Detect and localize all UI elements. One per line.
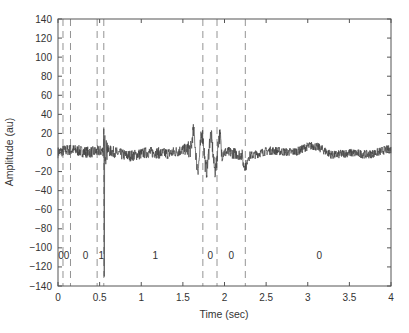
x-tick-label: 2.5 [259, 292, 273, 303]
y-tick-label: −40 [35, 185, 52, 196]
amplitude-time-chart: 00.511.522.533.54 140120100806040200−20−… [0, 0, 409, 333]
y-axis-label: Amplitude (au) [3, 118, 15, 186]
signal-trace [58, 124, 391, 276]
x-tick-label: 0.5 [93, 292, 107, 303]
x-tick-label: 3.5 [342, 292, 356, 303]
x-tick-label: 0 [55, 292, 61, 303]
x-tick-label: 1.5 [176, 292, 190, 303]
segment-label: 0 [208, 250, 214, 261]
segment-label: 1 [99, 250, 105, 261]
x-tick-label: 4 [388, 292, 394, 303]
y-tick-label: 120 [35, 33, 52, 44]
y-tick-label: −120 [29, 261, 52, 272]
segment-labels: 00011000 [58, 250, 322, 261]
y-tick-label: 80 [41, 71, 53, 82]
y-tick-label: 40 [41, 109, 53, 120]
y-tick-label: 20 [41, 128, 53, 139]
y-tick-label: −140 [29, 281, 52, 292]
x-axis-label: Time (sec) [199, 308, 248, 320]
y-tick-label: 0 [46, 147, 52, 158]
y-tick-label: −60 [35, 204, 52, 215]
x-tick-label: 2 [222, 292, 228, 303]
y-tick-label: 140 [35, 14, 52, 25]
segment-label: 1 [153, 250, 159, 261]
segment-label: 0 [228, 250, 234, 261]
x-tick-label: 3 [305, 292, 311, 303]
y-tick-label: 100 [35, 52, 52, 63]
x-tick-label: 1 [138, 292, 144, 303]
y-tick-label: −80 [35, 223, 52, 234]
segment-label: 00 [58, 250, 70, 261]
segment-label: 0 [83, 250, 89, 261]
y-tick-label: −100 [29, 242, 52, 253]
y-tick-label: −20 [35, 166, 52, 177]
y-tick-label: 60 [41, 90, 53, 101]
segment-label: 0 [317, 250, 323, 261]
signal-line [58, 124, 391, 276]
